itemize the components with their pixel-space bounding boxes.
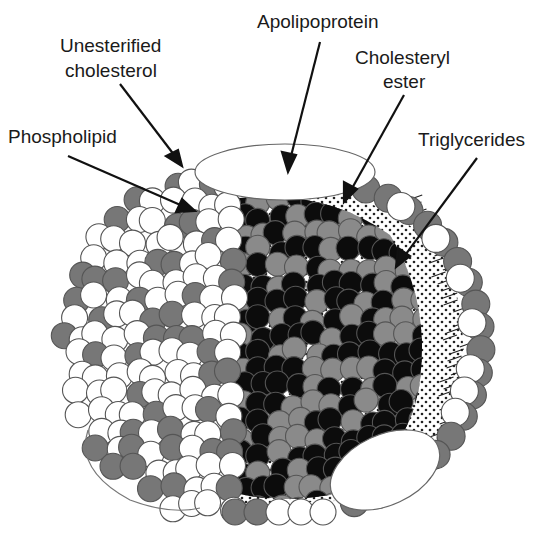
- phospholipid-molecule: [65, 402, 91, 428]
- phospholipid-molecule: [81, 282, 107, 308]
- arrow-unesterified-cholesterol-head: [166, 150, 182, 166]
- cholesteryl-ester-molecule: [246, 305, 270, 329]
- phospholipid-molecule: [220, 453, 246, 479]
- arrow-unesterified-cholesterol: [120, 84, 178, 160]
- phospholipid-molecule: [157, 224, 183, 250]
- arrow-apolipoprotein: [290, 42, 320, 160]
- label-cholesteryl-ester-2: ester: [383, 71, 426, 92]
- label-phospholipid: Phospholipid: [8, 126, 117, 147]
- phospholipid-molecule: [441, 398, 469, 426]
- unesterified-cholesterol-molecule: [215, 358, 241, 384]
- phospholipid-molecule: [195, 490, 221, 516]
- unesterified-cholesterol-molecule: [120, 453, 146, 479]
- phospholipid-molecule: [310, 499, 336, 525]
- unesterified-cholesterol-molecule: [138, 476, 164, 502]
- phospholipid-molecule: [458, 309, 486, 337]
- label-unesterified-cholesterol-2: cholesterol: [65, 60, 157, 81]
- cholesteryl-ester-molecule: [411, 496, 435, 520]
- label-unesterified-cholesterol-1: Unesterified: [60, 35, 161, 56]
- cholesteryl-ester-molecule: [265, 371, 289, 395]
- label-triglycerides: Triglycerides: [418, 129, 525, 150]
- cholesteryl-ester-molecule: [336, 236, 360, 260]
- arrow-cholesteryl-ester: [350, 95, 404, 192]
- label-apolipoprotein: Apolipoprotein: [257, 11, 378, 32]
- phospholipid-shell-left: [51, 169, 247, 523]
- unesterified-cholesterol-molecule: [216, 475, 242, 501]
- lipoprotein-diagram: Apolipoprotein Unesterified cholesterol …: [0, 0, 538, 545]
- label-cholesteryl-ester-1: Cholesteryl: [355, 47, 450, 68]
- triglyceride-molecule: [354, 388, 378, 412]
- phospholipid-molecule: [387, 193, 415, 221]
- phospholipid-molecule: [446, 264, 474, 292]
- phospholipid-molecule: [63, 377, 89, 403]
